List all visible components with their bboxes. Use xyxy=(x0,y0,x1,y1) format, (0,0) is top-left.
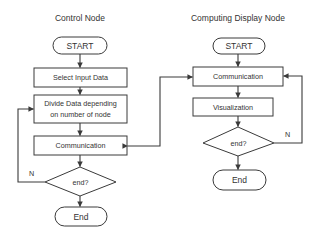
display-start-label: START xyxy=(225,41,252,51)
divide-data-box: Divide Data depending on number of node xyxy=(34,95,127,123)
select-input-data-label: Select Input Data xyxy=(53,73,108,82)
control-end-decision-label: end? xyxy=(73,178,89,187)
divide-data-label-line2: on number of node xyxy=(50,110,110,119)
control-node-flow: START Select Input Data Divide Data depe… xyxy=(18,37,127,226)
visualization-box: Visualization xyxy=(193,98,273,116)
control-end-terminator: End xyxy=(55,207,107,226)
flowchart: Control Node Computing Display Node STAR… xyxy=(0,0,318,237)
display-end-decision-label: end? xyxy=(231,139,247,148)
visualization-label: Visualization xyxy=(213,103,253,112)
communication-link-arrow xyxy=(128,77,193,146)
control-communication-box: Communication xyxy=(34,136,127,155)
control-no-label: N xyxy=(29,169,34,178)
display-end-label: End xyxy=(232,175,247,185)
display-start-terminator: START xyxy=(213,38,265,54)
display-no-label: N xyxy=(285,130,290,139)
display-communication-label: Communication xyxy=(213,72,263,81)
control-communication-label: Communication xyxy=(56,141,106,150)
control-start-terminator: START xyxy=(53,37,107,54)
select-input-data-box: Select Input Data xyxy=(34,68,127,87)
control-end-label: End xyxy=(73,212,88,222)
display-node-flow: START Communication Visualization end? E… xyxy=(193,38,302,190)
display-end-terminator: End xyxy=(213,170,266,190)
divide-data-label-line1: Divide Data depending xyxy=(44,99,117,108)
control-end-decision: end? xyxy=(45,167,116,196)
display-communication-box: Communication xyxy=(193,67,283,86)
display-end-decision: end? xyxy=(203,127,274,156)
computing-display-node-title: Computing Display Node xyxy=(191,13,285,23)
control-node-title: Control Node xyxy=(55,13,105,23)
control-start-label: START xyxy=(66,41,93,51)
